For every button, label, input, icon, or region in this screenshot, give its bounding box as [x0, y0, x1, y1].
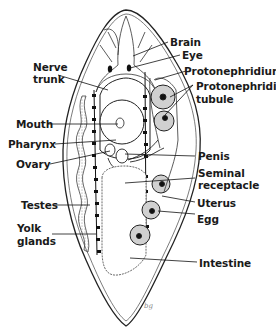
label-nerve-trunk-line2: trunk: [33, 73, 65, 85]
label-protonephridium: Protonephridium: [184, 65, 276, 77]
mouth: [116, 118, 124, 128]
label-testes: Testes: [21, 199, 58, 211]
flatworm-diagram: Brain Eye Protonephridium Protonephridia…: [0, 0, 276, 333]
artist-signature: bg: [144, 302, 153, 310]
label-pharynx: Pharynx: [8, 138, 56, 150]
label-egg: Egg: [197, 213, 219, 225]
label-eye: Eye: [182, 49, 203, 61]
label-nerve-trunk-line1: Nerve: [33, 61, 68, 73]
eye-left: [108, 66, 112, 73]
label-brain: Brain: [170, 36, 201, 48]
label-protonephridial-tubule-line1: Protonephridial: [196, 80, 276, 92]
label-mouth: Mouth: [16, 118, 53, 130]
label-intestine: Intestine: [199, 257, 251, 269]
label-seminal-receptacle-line2: receptacle: [198, 179, 259, 191]
label-uterus: Uterus: [197, 197, 236, 209]
label-ovary: Ovary: [16, 158, 50, 170]
label-protonephridial-tubule-line2: tubule: [196, 93, 234, 105]
label-seminal-receptacle-line1: Seminal: [198, 167, 245, 179]
label-penis: Penis: [198, 150, 230, 162]
label-yolk-glands-line1: Yolk: [17, 222, 41, 234]
label-yolk-glands-line2: glands: [17, 235, 56, 247]
